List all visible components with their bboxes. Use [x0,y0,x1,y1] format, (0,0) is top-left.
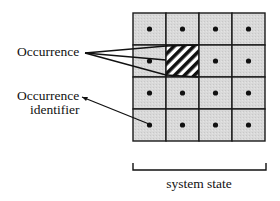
occurrence-identifier-dot-icon [180,26,185,31]
system-state-grid [133,13,265,141]
occurrence-identifier-dot-icon [246,26,251,31]
occurrence-identifier-dot-icon [246,122,251,127]
occurrence-identifier-dot-icon [213,58,218,63]
occurrence-identifier-dot-icon [246,58,251,63]
occurrence-cell-hatched [166,45,199,77]
occurrence-identifier-dot-icon [180,90,185,95]
occurrence-identifier-label-line2: identifier [30,102,80,117]
occurrence-identifier-dot-icon [180,122,185,127]
system-state-bracket [133,163,266,170]
occurrence-identifier-dot-icon [147,26,152,31]
occurrence-label: Occurrence [17,44,79,59]
occurrence-identifier-dot-icon [147,90,152,95]
occurrence-identifier-dot-icon [213,26,218,31]
occurrence-identifier-dot-icon [213,90,218,95]
occurrence-identifier-dot-icon [246,90,251,95]
occurrence-grid-diagram: Occurrence Occurrence identifier system … [0,0,280,201]
occurrence-identifier-dot-icon [213,122,218,127]
system-state-label: system state [166,176,232,191]
occurrence-identifier-label-line1: Occurrence [17,88,79,103]
